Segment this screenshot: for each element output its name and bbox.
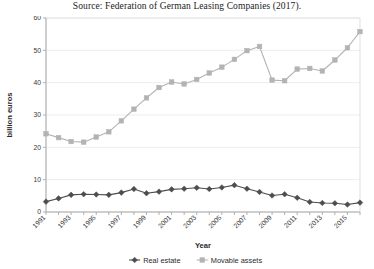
chart-figure: 0102030405060 19911993199519971999200120… (0, 16, 374, 269)
data-point (119, 119, 124, 124)
data-point (295, 67, 300, 72)
y-tick-label: 40 (33, 79, 41, 86)
x-tick-label: 2007 (232, 214, 248, 230)
legend-label: Real estate (143, 256, 180, 265)
legend-item-movable-assets[interactable]: Movable assets (197, 256, 263, 265)
data-point (270, 78, 275, 83)
data-point (144, 96, 149, 101)
x-axis (46, 212, 360, 215)
data-point (307, 66, 312, 71)
legend-marker (132, 257, 138, 263)
x-tick-label: 2003 (182, 214, 198, 230)
y-axis (43, 18, 46, 212)
data-point (232, 57, 237, 62)
x-tick-label: 2005 (207, 214, 223, 230)
legend-marker (200, 258, 205, 263)
data-point (81, 140, 86, 145)
data-point (107, 130, 112, 135)
data-point (245, 48, 250, 53)
x-axis-title: Year (195, 241, 211, 250)
y-tick-label: 10 (33, 176, 41, 183)
y-tick-label: 30 (33, 111, 41, 118)
data-point (69, 139, 74, 144)
y-tick-label: 60 (33, 16, 41, 21)
chart-legend: Real estateMovable assets (129, 256, 262, 265)
data-point (207, 71, 212, 76)
x-axis-tick-labels: 1991199319951997199920012003200520072009… (31, 214, 348, 230)
y-axis-title: billion euros (5, 92, 14, 137)
data-point (320, 69, 325, 74)
source-caption: Source: Federation of German Leasing Com… (0, 1, 374, 11)
x-tick-label: 1997 (106, 214, 122, 230)
data-point (358, 29, 363, 34)
x-tick-label: 1999 (132, 214, 148, 230)
data-point (220, 65, 225, 70)
data-point (157, 85, 162, 90)
x-tick-label: 1991 (31, 214, 47, 230)
data-point (94, 135, 99, 140)
data-point (194, 77, 199, 82)
data-point (132, 107, 137, 112)
data-point (169, 80, 174, 85)
data-point (282, 78, 287, 83)
x-tick-label: 2001 (157, 214, 173, 230)
legend-label: Movable assets (211, 256, 263, 265)
x-tick-label: 1995 (81, 214, 97, 230)
x-tick-label: 2011 (283, 214, 298, 229)
x-tick-label: 1993 (56, 214, 72, 230)
data-point (257, 44, 262, 49)
y-axis-tick-labels: 0102030405060 (33, 16, 41, 215)
data-point (182, 82, 187, 87)
y-tick-label: 20 (33, 144, 41, 151)
chart-canvas: 0102030405060 19911993199519971999200120… (0, 16, 374, 269)
data-point (333, 58, 338, 63)
legend-item-real-estate[interactable]: Real estate (129, 256, 180, 265)
data-point (44, 131, 49, 136)
data-point (56, 135, 61, 140)
x-tick-label: 2015 (333, 214, 349, 230)
data-point (345, 45, 350, 50)
y-tick-label: 50 (33, 47, 41, 54)
x-tick-label: 2013 (307, 214, 323, 230)
x-tick-label: 2009 (257, 214, 273, 230)
